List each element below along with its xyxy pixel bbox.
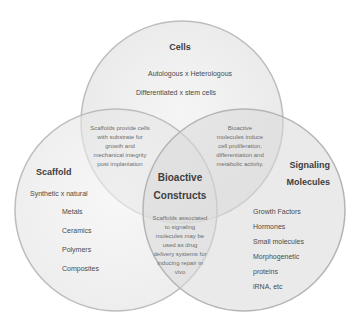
scaffold-item: Composites (62, 265, 99, 273)
scaffold-item: Metals (62, 208, 83, 215)
cells-title: Cells (169, 42, 191, 52)
signaling-title-line: Molecules (286, 177, 330, 187)
scaffold-item: Synthetic x natural (30, 190, 88, 198)
overlap-text-line: Scaffolds associated (153, 215, 208, 221)
signaling-item: Growth Factors (253, 208, 301, 215)
overlap-text-line: mechanical integrity (93, 152, 146, 158)
scaffold-title: Scaffold (36, 167, 72, 177)
scaffold-item: Ceramics (62, 227, 92, 234)
overlap-text-line: Scaffolds provide cells (90, 125, 150, 131)
overlap-text-line: growth and (105, 143, 135, 149)
signaling-item: proteins (253, 268, 278, 276)
cells-item: Autologous x Heterologous (148, 70, 233, 78)
overlap-text-line: differentiation and (216, 152, 264, 158)
center-title-line: Constructs (154, 190, 207, 201)
signaling-item: Small molecules (253, 238, 304, 245)
overlap-text-line: delivery systems for (153, 251, 206, 257)
center-title-line: Bioactive (158, 172, 203, 183)
overlap-text-line: molecules induce (217, 134, 264, 140)
venn-diagram: Cells Autologous x Heterologous Differen… (0, 0, 355, 327)
signaling-item: Morphogenetic (253, 253, 300, 261)
overlap-text-line: inducing repair in (157, 260, 203, 266)
signaling-item: iRNA, etc (253, 283, 283, 290)
overlap-text-line: used as drug (163, 242, 198, 248)
cells-item: Differentiated x stem cells (136, 89, 217, 96)
signaling-title-line: Signaling (290, 160, 331, 170)
overlap-text-line: with substrate for (96, 134, 143, 140)
overlap-text-line: molecules may be (156, 233, 205, 239)
scaffold-item: Polymers (62, 246, 92, 254)
overlap-text-line: cell proliferation, (218, 143, 262, 149)
overlap-text-line: post implantation (97, 161, 142, 167)
overlap-text-line: to signaling (165, 224, 195, 230)
signaling-item: Hormones (253, 223, 286, 230)
overlap-text-line: metabolic activity. (217, 161, 264, 167)
overlap-text-line: vivo (175, 269, 186, 275)
overlap-text-line: Bioactive (228, 125, 253, 131)
